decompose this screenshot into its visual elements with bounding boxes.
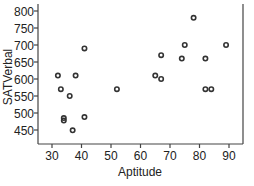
x-ticks: 30405060708090 [45, 144, 236, 163]
data-point-marker [82, 46, 86, 50]
data-point-marker [203, 87, 207, 91]
data-point-marker [159, 77, 163, 81]
x-axis-title: Aptitude [118, 165, 162, 179]
y-ticks: 450500550600650700750800 [14, 5, 38, 138]
data-point-marker [209, 87, 213, 91]
x-tick-label: 90 [222, 149, 236, 163]
y-tick-label: 600 [14, 73, 34, 87]
y-tick-label: 750 [14, 22, 34, 36]
y-tick-label: 650 [14, 56, 34, 70]
data-point-marker [159, 53, 163, 57]
x-tick-label: 60 [134, 149, 148, 163]
y-tick-label: 500 [14, 107, 34, 121]
x-tick-label: 80 [193, 149, 207, 163]
data-point-marker [82, 115, 86, 119]
data-points [56, 16, 229, 133]
data-point-marker [183, 43, 187, 47]
data-point-marker [115, 87, 119, 91]
data-point-marker [224, 43, 228, 47]
data-point-marker [59, 87, 63, 91]
y-tick-label: 700 [14, 39, 34, 53]
data-point-marker [73, 73, 77, 77]
data-point-marker [191, 16, 195, 20]
x-tick-label: 50 [104, 149, 118, 163]
scatter-chart: 450500550600650700750800 30405060708090 … [0, 0, 254, 186]
y-axis-title: SATVerbal [1, 49, 15, 105]
y-tick-label: 450 [14, 124, 34, 138]
data-point-marker [56, 73, 60, 77]
y-tick-label: 800 [14, 5, 34, 19]
data-point-marker [70, 128, 74, 132]
data-point-marker [153, 73, 157, 77]
data-point-marker [180, 56, 184, 60]
y-tick-label: 550 [14, 90, 34, 104]
data-point-marker [68, 94, 72, 98]
x-tick-label: 70 [163, 149, 177, 163]
x-tick-label: 30 [45, 149, 59, 163]
x-tick-label: 40 [75, 149, 89, 163]
data-point-marker [203, 56, 207, 60]
axes [38, 4, 243, 144]
